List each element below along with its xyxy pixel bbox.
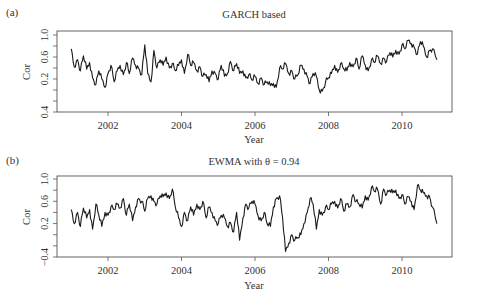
y-tick-label: 1.0 xyxy=(39,29,50,42)
x-tick-label: 2004 xyxy=(171,120,193,131)
x-tick-label: 2008 xyxy=(318,120,339,131)
y-tick-label: 1.0 xyxy=(39,173,50,186)
panel-a-label: (a) xyxy=(6,6,19,19)
panel-b-label: (b) xyxy=(6,154,19,167)
panel-a: (a) GARCH based 0.40.20.61.0 20022004200… xyxy=(6,6,452,145)
panel-a-title: GARCH based xyxy=(222,9,286,20)
panel-b-y-axis: −0.40.20.61.0 xyxy=(39,173,57,266)
panel-b-plot-box xyxy=(57,176,452,257)
panel-b-series-line xyxy=(71,184,437,251)
x-tick-label: 2006 xyxy=(245,120,266,131)
panel-b-x-axis: 20022004200620082010 xyxy=(98,257,413,276)
y-tick-label: 0.4 xyxy=(39,106,50,119)
panel-a-ylabel: Cor xyxy=(21,64,32,80)
chart-figure: (a) GARCH based 0.40.20.61.0 20022004200… xyxy=(0,0,479,299)
panel-b-title: EWMA with θ = 0.94 xyxy=(208,156,300,167)
y-tick-label: −0.4 xyxy=(39,248,50,266)
x-tick-label: 2010 xyxy=(392,265,413,276)
y-tick-label: 0.2 xyxy=(39,73,50,86)
panel-b-xlabel: Year xyxy=(244,280,264,291)
x-tick-label: 2004 xyxy=(171,265,193,276)
x-tick-label: 2002 xyxy=(98,120,119,131)
y-tick-label: 0.2 xyxy=(39,217,50,230)
y-tick-label: 0.6 xyxy=(39,51,50,64)
panel-a-y-axis: 0.40.20.61.0 xyxy=(39,29,57,119)
panel-a-x-axis: 20022004200620082010 xyxy=(98,112,413,131)
x-tick-label: 2010 xyxy=(392,120,413,131)
y-tick-label: 0.6 xyxy=(39,195,50,208)
panel-b: (b) EWMA with θ = 0.94 −0.40.20.61.0 200… xyxy=(6,154,452,291)
x-tick-label: 2002 xyxy=(98,265,119,276)
x-tick-label: 2006 xyxy=(245,265,266,276)
panel-b-ylabel: Cor xyxy=(21,209,32,225)
panel-a-series-line xyxy=(71,40,437,93)
panel-a-xlabel: Year xyxy=(244,134,264,145)
x-tick-label: 2008 xyxy=(318,265,339,276)
